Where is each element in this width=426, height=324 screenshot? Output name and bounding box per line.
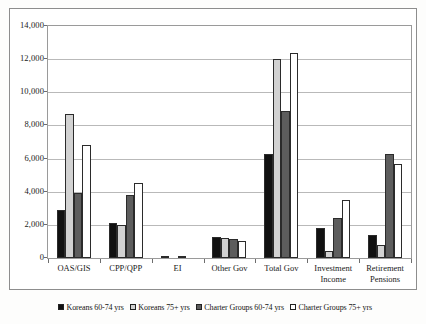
bar-group xyxy=(48,26,100,258)
y-axis-tick-label: 6,000 xyxy=(0,154,44,163)
x-axis-label: EI xyxy=(152,263,204,274)
bar xyxy=(82,145,91,258)
legend-swatch-icon xyxy=(290,304,296,310)
bar xyxy=(212,237,221,258)
legend-swatch-icon xyxy=(130,304,136,310)
y-axis-tick-label: 8,000 xyxy=(0,120,44,129)
y-axis: 02,0004,0006,0008,00010,00012,00014,000 xyxy=(0,25,44,259)
bar xyxy=(238,241,247,258)
bar xyxy=(273,59,282,258)
legend-entry: Charter Groups 60-74 yrs xyxy=(196,303,284,312)
bar-group xyxy=(100,26,152,258)
legend-swatch-icon xyxy=(58,304,64,310)
bar xyxy=(377,245,386,258)
bar xyxy=(264,154,273,258)
x-axis-label: CPP/QPP xyxy=(100,263,152,274)
bar xyxy=(161,256,170,258)
chart-page: 02,0004,0006,0008,00010,00012,00014,000 … xyxy=(0,0,426,324)
bar xyxy=(74,193,83,258)
bar xyxy=(109,223,118,258)
x-axis-label: Investment Income xyxy=(307,263,359,284)
bar-group xyxy=(204,26,256,258)
bar xyxy=(229,239,238,258)
bar xyxy=(117,225,126,258)
bar xyxy=(394,164,403,258)
legend-label: Koreans 60-74 yrs xyxy=(66,303,123,312)
bar-group xyxy=(307,26,359,258)
bar-group xyxy=(359,26,411,258)
legend-swatch-icon xyxy=(196,304,202,310)
legend-label: Koreans 75+ yrs xyxy=(138,303,189,312)
bar xyxy=(290,53,299,258)
bar xyxy=(325,251,334,258)
bar xyxy=(316,228,325,258)
legend-entry: Charter Groups 75+ yrs xyxy=(290,303,372,312)
y-axis-tick-label: 0 xyxy=(0,253,44,262)
bar xyxy=(281,111,290,258)
chart-legend: Koreans 60-74 yrsKoreans 75+ yrsCharter … xyxy=(55,300,375,314)
y-axis-tick-label: 14,000 xyxy=(0,21,44,30)
bar xyxy=(385,154,394,258)
bar xyxy=(134,183,143,258)
bar xyxy=(368,235,377,258)
bar xyxy=(221,238,230,258)
legend-entry: Koreans 75+ yrs xyxy=(130,303,190,312)
legend-label: Charter Groups 75+ yrs xyxy=(298,303,372,312)
legend-label: Charter Groups 60-74 yrs xyxy=(204,303,284,312)
bar xyxy=(57,210,66,258)
legend-entry: Koreans 60-74 yrs xyxy=(58,303,124,312)
x-axis-label: OAS/GIS xyxy=(48,263,100,274)
y-axis-tick-label: 10,000 xyxy=(0,87,44,96)
bar-group xyxy=(152,26,204,258)
y-axis-tick-label: 2,000 xyxy=(0,220,44,229)
bar xyxy=(342,200,351,258)
bar-group xyxy=(255,26,307,258)
bar xyxy=(178,256,187,258)
x-axis-labels: OAS/GISCPP/QPPEIOther GovTotal GovInvest… xyxy=(48,263,411,289)
bars-layer xyxy=(48,26,411,258)
bar xyxy=(126,195,135,258)
bar xyxy=(333,218,342,258)
bar xyxy=(65,114,74,258)
y-axis-tick-label: 12,000 xyxy=(0,54,44,63)
x-axis-label: Total Gov xyxy=(255,263,307,274)
x-axis-tick-mark xyxy=(411,259,412,263)
y-axis-tick-label: 4,000 xyxy=(0,187,44,196)
x-axis-label: Other Gov xyxy=(204,263,256,274)
x-axis-label: Retirement Pensions xyxy=(359,263,411,284)
